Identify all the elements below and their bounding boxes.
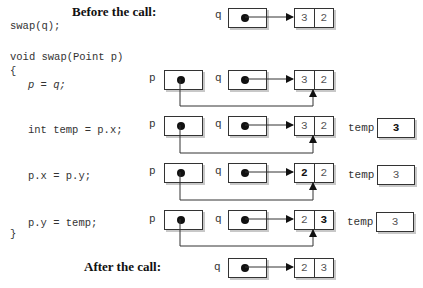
p-label: p	[149, 72, 156, 84]
pointer-dot-icon	[241, 169, 249, 177]
point-object: 2 3	[294, 258, 334, 278]
pointer-dot-icon	[177, 122, 185, 130]
temp-label: temp	[348, 122, 374, 134]
point-y-cell: 3	[314, 259, 334, 277]
point-y-cell: 2	[314, 117, 334, 135]
point-y-cell: 2	[314, 164, 334, 182]
temp-label: temp	[347, 216, 373, 228]
pointer-dot-icon	[241, 216, 249, 224]
point-y-cell: 3	[314, 211, 334, 229]
before-call-heading: Before the call:	[72, 4, 156, 20]
point-x-cell: 3	[295, 71, 314, 89]
point-object: 2 3	[294, 210, 334, 230]
code-line-py: p.y = temp;	[28, 217, 97, 229]
q-reference-box	[228, 258, 267, 278]
p-reference-box	[164, 116, 203, 136]
point-object: 3 2	[294, 70, 334, 90]
q-reference-box	[228, 116, 267, 136]
temp-label: temp	[348, 169, 374, 181]
pointer-dot-icon	[177, 216, 185, 224]
code-call: swap(q);	[10, 20, 60, 32]
pointer-dot-icon	[241, 264, 249, 272]
q-label: q	[215, 9, 222, 21]
p-reference-box	[164, 163, 203, 183]
pointer-dot-icon	[241, 122, 249, 130]
q-reference-box	[228, 210, 267, 230]
code-signature: void swap(Point p)	[10, 51, 123, 63]
q-reference-box	[228, 8, 267, 28]
point-x-cell: 2	[295, 211, 314, 229]
q-reference-box	[228, 163, 267, 183]
p-reference-box	[164, 70, 203, 90]
temp-value-box: 3	[376, 212, 414, 232]
q-label: q	[214, 261, 221, 273]
pointer-dot-icon	[177, 169, 185, 177]
code-line-assign: p = q;	[28, 79, 66, 91]
q-label: q	[215, 213, 222, 225]
point-object: 3 2	[294, 116, 334, 136]
point-x-cell: 3	[295, 9, 314, 27]
p-label: p	[149, 118, 156, 130]
pointer-arrows	[0, 0, 423, 288]
point-y-cell: 2	[314, 9, 334, 27]
p-label: p	[149, 165, 156, 177]
code-line-temp: int temp = p.x;	[28, 124, 123, 136]
point-object: 2 2	[294, 163, 334, 183]
pointer-dot-icon	[241, 76, 249, 84]
temp-value-box: 3	[377, 165, 415, 185]
p-reference-box	[164, 210, 203, 230]
code-open-brace: {	[10, 65, 16, 77]
point-x-cell: 2	[295, 164, 314, 182]
pointer-dot-icon	[241, 14, 249, 22]
q-label: q	[215, 165, 222, 177]
p-label: p	[149, 213, 156, 225]
point-object: 3 2	[294, 8, 334, 28]
code-line-px: p.x = p.y;	[28, 170, 91, 182]
temp-value-box: 3	[377, 118, 415, 138]
q-label: q	[215, 72, 222, 84]
q-label: q	[215, 118, 222, 130]
pointer-dot-icon	[177, 76, 185, 84]
after-call-heading: After the call:	[84, 259, 161, 275]
code-close-brace: }	[10, 228, 16, 240]
q-reference-box	[228, 70, 267, 90]
point-x-cell: 2	[295, 259, 314, 277]
point-y-cell: 2	[314, 71, 334, 89]
point-x-cell: 3	[295, 117, 314, 135]
